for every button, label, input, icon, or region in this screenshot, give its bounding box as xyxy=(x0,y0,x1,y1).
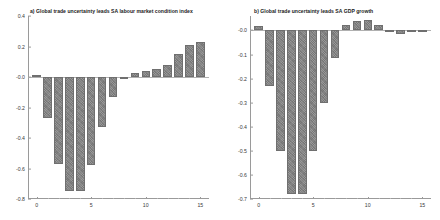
panel-b-y-tick-mark xyxy=(250,78,253,79)
bar xyxy=(265,30,274,85)
panel-b-x-tick-label: 15 xyxy=(419,202,425,208)
panel-a-y-tick-label: 0.2 xyxy=(18,44,25,50)
panel-a-y-tick-mark xyxy=(28,138,31,139)
bar xyxy=(396,30,405,33)
panel-b-x-minor-tick xyxy=(346,198,347,199)
panel-a-y-tick-label: 0.4 xyxy=(18,13,25,19)
bar xyxy=(320,30,329,102)
panel-b-y-tick-label: -0.3 xyxy=(238,100,247,106)
panel-b-y-tick-mark xyxy=(250,175,253,176)
panel-b-y-tick-label: -0.0 xyxy=(238,27,247,33)
panel-b-plot-area: -0.0-0.1-0.2-0.3-0.4-0.5-0.6-0.7051015 xyxy=(250,16,431,199)
bar xyxy=(32,75,41,77)
bar xyxy=(185,45,194,77)
panel-a-x-minor-tick xyxy=(189,198,190,199)
panel-b-y-tick-mark xyxy=(250,126,253,127)
bar xyxy=(276,30,285,150)
panel-b-y-tick-label: -0.6 xyxy=(238,172,247,178)
panel-b-x-minor-tick xyxy=(270,198,271,199)
panel-a-y-tick-label: -0.0 xyxy=(16,74,25,80)
bar xyxy=(76,77,85,191)
chart-panel-b: b) Global trade uncertainty leads SA GDP… xyxy=(220,0,440,220)
panel-a-y-tick-mark xyxy=(28,46,31,47)
panel-b-x-tick-label: 10 xyxy=(365,202,371,208)
bar xyxy=(287,30,296,194)
bar xyxy=(254,26,263,30)
panel-b-x-minor-tick xyxy=(281,198,282,199)
bar xyxy=(163,65,172,77)
bar xyxy=(385,30,394,32)
panel-b-x-tick-label: 0 xyxy=(257,202,260,208)
panel-a-y-tick-mark xyxy=(28,77,31,78)
bar xyxy=(131,73,140,77)
bar xyxy=(142,71,151,77)
panel-b-y-axis xyxy=(250,16,251,199)
panel-a-x-minor-tick xyxy=(135,198,136,199)
panel-b-y-tick-label: -0.1 xyxy=(238,52,247,58)
panel-a-x-minor-tick xyxy=(59,198,60,199)
panel-a-title: a) Global trade uncertainty leads SA lab… xyxy=(30,8,193,14)
panel-a-x-tick-label: 0 xyxy=(35,202,38,208)
chart-panel-a: a) Global trade uncertainty leads SA lab… xyxy=(0,0,220,220)
panel-b-x-tick-mark xyxy=(422,197,423,200)
panel-a-x-minor-tick xyxy=(157,198,158,199)
panel-a-x-tick-mark xyxy=(146,197,147,200)
panel-a-x-minor-tick xyxy=(113,198,114,199)
panel-b-y-tick-mark xyxy=(250,150,253,151)
panel-b-y-tick-label: -0.7 xyxy=(238,196,247,202)
panel-b-x-tick-mark xyxy=(259,197,260,200)
panel-a-x-minor-tick xyxy=(48,198,49,199)
panel-a-x-tick-mark xyxy=(200,197,201,200)
panel-b-x-minor-tick xyxy=(390,198,391,199)
panel-a-x-tick-label: 5 xyxy=(90,202,93,208)
bar xyxy=(65,77,74,191)
panel-b-y-tick-label: -0.5 xyxy=(238,148,247,154)
bar xyxy=(196,42,205,77)
panel-a-y-tick-label: -0.2 xyxy=(16,105,25,111)
panel-a-y-tick-label: -0.4 xyxy=(16,135,25,141)
panel-a-x-tick-mark xyxy=(91,197,92,200)
panel-b-y-tick-mark xyxy=(250,54,253,55)
bar xyxy=(298,30,307,194)
panel-b-x-minor-tick xyxy=(357,198,358,199)
bar xyxy=(87,77,96,165)
panel-b-y-tick-label: -0.2 xyxy=(238,76,247,82)
panel-b-x-minor-tick xyxy=(400,198,401,199)
panel-b-y-tick-mark xyxy=(250,199,253,200)
panel-a-x-minor-tick xyxy=(124,198,125,199)
panel-b-x-minor-tick xyxy=(411,198,412,199)
bar xyxy=(43,77,52,118)
panel-a-x-minor-tick xyxy=(69,198,70,199)
panel-b-x-minor-tick xyxy=(302,198,303,199)
panel-b-y-tick-mark xyxy=(250,102,253,103)
panel-a-x-tick-mark xyxy=(37,197,38,200)
panel-b-x-tick-label: 5 xyxy=(312,202,315,208)
panel-a-x-minor-tick xyxy=(80,198,81,199)
panel-a-plot-area: 0.40.2-0.0-0.2-0.4-0.6-0.8051015 xyxy=(28,16,209,199)
panel-b-x-minor-tick xyxy=(324,198,325,199)
bar xyxy=(374,25,383,30)
bar xyxy=(353,21,362,31)
panel-b-x-minor-tick xyxy=(335,198,336,199)
panel-a-x-tick-label: 10 xyxy=(143,202,149,208)
panel-b-y-tick-label: -0.4 xyxy=(238,124,247,130)
panel-a-y-tick-label: -0.8 xyxy=(16,196,25,202)
panel-a-x-axis xyxy=(28,198,209,199)
bar xyxy=(331,30,340,58)
panel-b-x-tick-mark xyxy=(368,197,369,200)
bar xyxy=(309,30,318,150)
bar xyxy=(364,20,373,31)
panel-a-x-tick-label: 15 xyxy=(197,202,203,208)
panel-b-title: b) Global trade uncertainty leads SA GDP… xyxy=(254,8,373,14)
panel-b-x-minor-tick xyxy=(291,198,292,199)
panel-a-y-tick-mark xyxy=(28,168,31,169)
bar xyxy=(152,69,161,77)
panel-a-x-minor-tick xyxy=(178,198,179,199)
panel-b-x-tick-mark xyxy=(313,197,314,200)
bar xyxy=(98,77,107,127)
panel-a-x-minor-tick xyxy=(102,198,103,199)
bar xyxy=(407,30,416,32)
bar xyxy=(418,30,427,32)
bar xyxy=(174,54,183,77)
panel-b-x-minor-tick xyxy=(379,198,380,199)
